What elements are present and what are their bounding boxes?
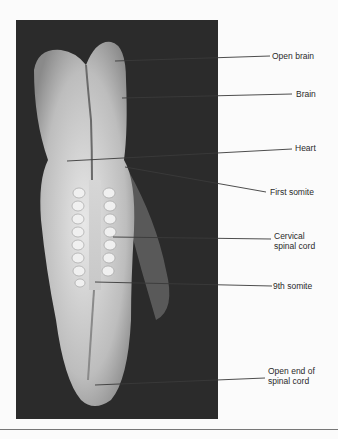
label-open-brain: Open brain [272, 51, 314, 61]
label-brain: Brain [296, 89, 316, 99]
label-heart: Heart [295, 143, 316, 153]
label-open-end-spinal-cord: Open end of spinal cord [268, 366, 315, 386]
label-first-somite: First somite [270, 187, 314, 197]
label-cervical-spinal-cord: Cervical spinal cord [274, 231, 315, 251]
label-line-1: Cervical [274, 231, 315, 241]
leader-open-brain [115, 56, 270, 61]
label-line-2: spinal cord [274, 241, 315, 251]
label-line-2: spinal cord [268, 376, 315, 386]
label-ninth-somite: 9th somite [273, 281, 312, 291]
bottom-rule [0, 429, 338, 430]
leader-brain [122, 94, 292, 98]
leader-heart [67, 149, 292, 161]
label-line-1: Open end of [268, 366, 315, 376]
